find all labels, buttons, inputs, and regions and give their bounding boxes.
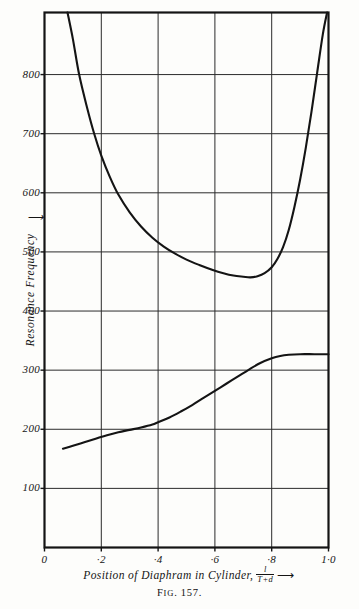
curve-lower-resonance-mode: [63, 354, 329, 449]
y-tick-label: 700: [2, 127, 40, 139]
fraction-denominator: T+d: [256, 575, 274, 584]
caption-smallcaps: IG: [164, 588, 175, 598]
data-curves: [63, 13, 329, 449]
y-tick-label: 100: [2, 481, 40, 493]
y-axis-title: Resonance Frequency ⟶: [23, 175, 37, 375]
chart-canvas: [0, 0, 359, 609]
y-tick-label: 200: [2, 422, 40, 434]
x-tick-label: ·8: [256, 553, 288, 565]
x-axis-arrow-icon: ⟶: [277, 568, 294, 583]
figure-caption: FIG. 157.: [0, 587, 359, 598]
caption-number: . 157.: [174, 587, 202, 598]
x-axis-fraction: l T+d: [256, 565, 274, 583]
x-tick-label: 0: [29, 553, 61, 565]
y-tick-label: 800: [2, 68, 40, 80]
curve-upper-resonance-mode: [68, 13, 328, 278]
x-axis-title: Position of Diaphram in Cylinder, l T+d …: [44, 566, 334, 584]
x-tick-label: ·4: [142, 553, 174, 565]
x-tick-label: 1·0: [313, 553, 345, 565]
x-tick-label: ·6: [199, 553, 231, 565]
figure-container: 100200300400500600700800 0·2·4·6·81·0 Re…: [0, 0, 359, 609]
y-axis-title-text: Resonance Frequency: [24, 234, 36, 347]
x-axis-title-text: Position of Diaphram in Cylinder,: [83, 569, 253, 581]
y-axis-arrow-icon: ⟶: [17, 210, 44, 224]
fraction-numerator: l: [263, 565, 268, 574]
x-tick-label: ·2: [85, 553, 117, 565]
axes-frame: [45, 13, 329, 548]
